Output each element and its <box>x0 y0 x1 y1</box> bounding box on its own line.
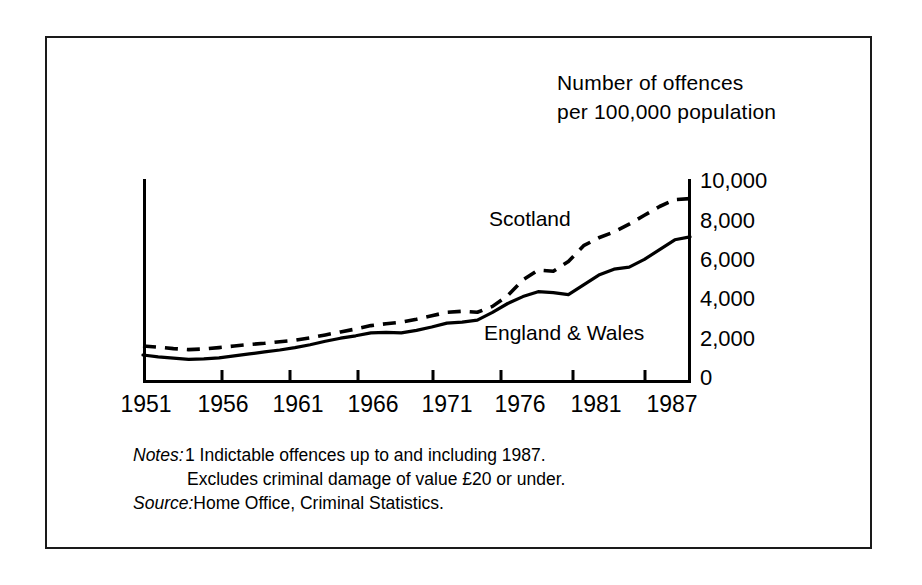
axis-title: Number of offences per 100,000 populatio… <box>557 68 887 126</box>
note-text-2: Excludes criminal damage of value £20 or… <box>187 469 565 489</box>
y-tick-label-2000: 2,000 <box>700 328 755 350</box>
source-line: Source:Home Office, Criminal Statistics. <box>133 491 833 515</box>
source-text: Home Office, Criminal Statistics. <box>193 493 444 513</box>
y-tick-label-0: 0 <box>700 367 712 389</box>
x-tick-label-1961: 1961 <box>272 391 323 417</box>
x-tick-label-1966: 1966 <box>347 391 398 417</box>
x-tick-label-1976: 1976 <box>494 391 545 417</box>
series-label-scotland: Scotland <box>489 208 571 230</box>
x-tick-label-1971: 1971 <box>421 391 472 417</box>
note-line-2: Excludes criminal damage of value £20 or… <box>133 467 833 491</box>
x-tick-label-1956: 1956 <box>197 391 248 417</box>
x-tick-label-1951: 1951 <box>120 391 171 417</box>
x-tick-label-1987: 1987 <box>646 391 697 417</box>
figure-notes: Notes:1 Indictable offences up to and in… <box>133 443 833 515</box>
y-tick-label-10000: 10,000 <box>700 170 767 192</box>
source-label: Source: <box>133 491 193 515</box>
y-tick-label-6000: 6,000 <box>700 249 755 271</box>
y-tick-label-4000: 4,000 <box>700 288 755 310</box>
series-label-england-wales: England & Wales <box>484 322 644 344</box>
note-line-1: Notes:1 Indictable offences up to and in… <box>133 443 833 467</box>
note-text-1: 1 Indictable offences up to and includin… <box>185 445 546 465</box>
figure-container: Number of offences per 100,000 populatio… <box>0 0 922 585</box>
x-tick-label-1981: 1981 <box>570 391 621 417</box>
y-tick-label-8000: 8,000 <box>700 210 755 232</box>
notes-label: Notes: <box>133 443 185 467</box>
